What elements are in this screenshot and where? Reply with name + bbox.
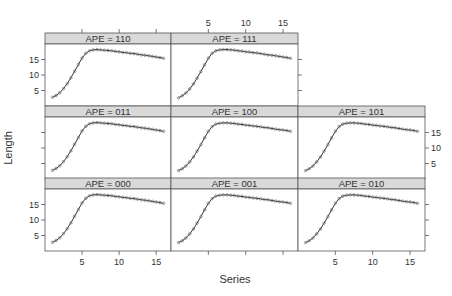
panel: APE = 0005101551015 <box>29 178 171 267</box>
panel-strip-label: APE = 111 <box>212 33 256 44</box>
x-tick-label: 10 <box>241 18 251 28</box>
panel-frame <box>298 189 425 251</box>
x-tick-label: 15 <box>151 257 161 267</box>
panel-frame <box>45 44 171 106</box>
x-tick-label: 15 <box>278 18 288 28</box>
x-tick-label: 15 <box>405 257 415 267</box>
y-tick-label: 10 <box>29 70 39 80</box>
panel-frame <box>171 44 298 106</box>
panel-strip-label: APE = 000 <box>85 178 131 189</box>
panel: APE = 100 <box>171 106 298 179</box>
x-tick-label: 10 <box>368 257 378 267</box>
panel: APE = 11151015 <box>171 18 302 106</box>
panel-frame <box>171 189 298 251</box>
panel-frame <box>45 117 171 179</box>
panel-frame <box>298 117 425 179</box>
panel-strip-label: APE = 001 <box>212 178 258 189</box>
x-tick-label: 5 <box>206 18 211 28</box>
panel-strip-label: APE = 010 <box>339 178 385 189</box>
y-tick-label: 5 <box>34 86 39 96</box>
panel: APE = 01051015 <box>298 178 429 267</box>
y-tick-label: 10 <box>29 215 39 225</box>
panel: APE = 011 <box>41 106 171 179</box>
panel: APE = 11051015 <box>29 29 171 106</box>
panel-strip-label: APE = 011 <box>86 106 131 117</box>
panel-strip-label: APE = 110 <box>86 33 131 44</box>
panel: APE = 10151015 <box>298 106 441 179</box>
y-tick-label: 15 <box>29 55 39 65</box>
y-tick-label: 15 <box>431 128 441 138</box>
panel-strip-label: APE = 101 <box>339 106 385 117</box>
panels-group: APE = 11051015APE = 11151015APE = 011APE… <box>29 18 441 267</box>
y-tick-label: 10 <box>431 143 441 153</box>
x-tick-label: 5 <box>333 257 338 267</box>
y-axis-label: Length <box>2 131 14 165</box>
y-tick-label: 5 <box>431 159 436 169</box>
x-tick-label: 5 <box>80 257 85 267</box>
x-axis-label: Series <box>219 273 251 285</box>
panel: APE = 001 <box>171 178 298 255</box>
x-tick-label: 10 <box>114 257 124 267</box>
panel-strip-label: APE = 100 <box>212 106 258 117</box>
panel-frame <box>171 117 298 179</box>
y-tick-label: 5 <box>34 231 39 241</box>
lattice-chart: APE = 11051015APE = 11151015APE = 011APE… <box>0 0 452 296</box>
panel-frame <box>45 189 171 251</box>
y-tick-label: 15 <box>29 200 39 210</box>
